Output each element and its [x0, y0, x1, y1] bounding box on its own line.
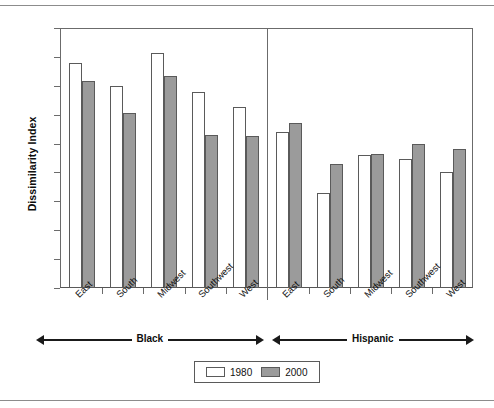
top-divider-rule [0, 5, 494, 6]
legend-item-1980: 1980 [206, 367, 252, 378]
bar-2000-West [453, 149, 466, 288]
legend-label-2000: 2000 [285, 367, 307, 378]
x-tick-mark [226, 288, 227, 294]
bar-2000-East [289, 123, 302, 288]
bar-1980-West [233, 107, 246, 288]
bar-1980-Southwest [192, 92, 205, 288]
bar-2000-Midwest [164, 76, 177, 288]
bar-1980-South [110, 86, 123, 288]
group-bracket-black: Black [36, 333, 264, 347]
bar-1980-Midwest [151, 53, 164, 288]
x-tick-mark [102, 288, 103, 294]
bar-1980-East [276, 132, 289, 288]
group-divider-line [267, 28, 268, 300]
figure: Dissimilarity Index 0102030405060708090 … [0, 0, 494, 408]
bar-2000-Midwest [371, 154, 384, 288]
legend-label-1980: 1980 [230, 367, 252, 378]
group-label: Black [132, 333, 169, 344]
x-tick-mark [143, 288, 144, 294]
legend-swatch-1980 [206, 367, 225, 377]
arrow-right-icon [256, 335, 264, 345]
bar-2000-South [330, 164, 343, 288]
bar-1980-West [440, 172, 453, 288]
bottom-divider-rule [0, 400, 494, 401]
bar-2000-Southwest [205, 135, 218, 288]
bar-1980-East [69, 63, 82, 288]
arrow-right-icon [466, 335, 474, 345]
x-tick-mark [309, 288, 310, 294]
x-tick-mark [185, 288, 186, 294]
group-bracket-hispanic: Hispanic [272, 333, 474, 347]
bar-2000-West [246, 136, 259, 288]
legend-item-2000: 2000 [261, 367, 307, 378]
group-label: Hispanic [347, 333, 399, 344]
bar-2000-South [123, 113, 136, 288]
bar-2000-East [82, 81, 95, 288]
arrow-left-icon [36, 335, 44, 345]
y-axis-title: Dissimilarity Index [26, 64, 38, 264]
bar-2000-Southwest [412, 144, 425, 288]
x-tick-mark [391, 288, 392, 294]
bar-1980-South [317, 193, 330, 288]
x-tick-mark [432, 288, 433, 294]
bar-1980-Midwest [358, 155, 371, 288]
y-tick-mark [54, 288, 60, 289]
x-tick-mark [350, 288, 351, 294]
bar-1980-Southwest [399, 159, 412, 288]
legend: 1980 2000 [194, 361, 320, 383]
arrow-left-icon [272, 335, 280, 345]
legend-swatch-2000 [261, 367, 280, 377]
